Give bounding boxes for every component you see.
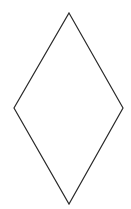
diagram-canvas bbox=[0, 0, 131, 209]
rhombus-shape bbox=[0, 0, 131, 209]
rhombus-outline bbox=[14, 13, 123, 204]
